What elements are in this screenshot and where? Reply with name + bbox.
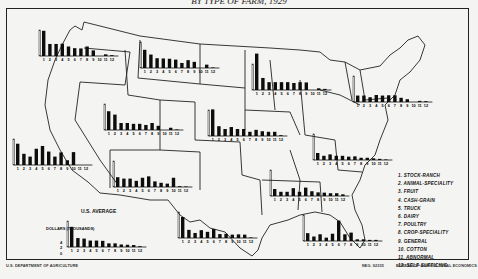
category-tick: 2 — [188, 240, 190, 244]
category-tick: 6 — [287, 92, 289, 96]
category-tick: 7 — [54, 167, 56, 171]
category-tick: 12 — [138, 249, 142, 253]
category-tick: 12 — [384, 162, 388, 166]
category-tick: 11 — [378, 162, 382, 166]
bar — [128, 179, 131, 187]
category-tick: 10 — [371, 162, 375, 166]
category-tick: 4 — [230, 138, 233, 142]
bar — [318, 234, 321, 241]
bar — [384, 159, 387, 160]
bar — [292, 188, 295, 196]
region-bar-chart: 123456789101112 — [252, 54, 331, 96]
category-tick: 12 — [341, 198, 345, 202]
category-tick: 9 — [261, 138, 263, 142]
category-tick: 1 — [256, 92, 258, 96]
bar — [316, 153, 319, 160]
category-tick: 7 — [108, 249, 110, 253]
bar — [298, 82, 301, 90]
bar — [347, 157, 350, 160]
category-tick: 2 — [150, 70, 152, 74]
bar — [22, 154, 25, 165]
bar — [255, 54, 258, 90]
category-tick: 10 — [97, 58, 101, 62]
bar — [166, 184, 169, 187]
category-tick: 4 — [274, 92, 277, 96]
bar — [107, 243, 110, 247]
bar — [138, 246, 141, 247]
bar — [116, 177, 119, 187]
bar — [223, 129, 226, 136]
bar — [286, 82, 289, 90]
bar — [35, 149, 38, 165]
category-tick: 2 — [363, 104, 365, 108]
bar — [132, 124, 135, 130]
category-tick: 3 — [194, 240, 196, 244]
bar — [144, 125, 147, 130]
category-tick: 11 — [78, 167, 82, 171]
bar — [73, 48, 76, 56]
category-tick: 11 — [273, 138, 277, 142]
legend-item: 1. STOCK-RANCH — [398, 172, 453, 180]
bar — [316, 192, 319, 196]
bar — [141, 178, 144, 187]
category-tick: 8 — [225, 240, 227, 244]
bar — [79, 48, 82, 56]
category-tick: 10 — [310, 92, 314, 96]
bar — [67, 46, 70, 56]
category-tick: 10 — [361, 243, 365, 247]
bar — [368, 240, 371, 241]
category-tick: 4 — [325, 243, 328, 247]
bar — [329, 193, 332, 196]
bar — [172, 178, 175, 187]
bar — [249, 237, 252, 238]
bar — [267, 132, 270, 136]
category-tick: 10 — [266, 138, 270, 142]
bar — [267, 82, 270, 90]
category-tick: 11 — [335, 198, 339, 202]
bar — [261, 131, 264, 136]
bar — [211, 109, 214, 136]
region-bar-chart: 123456789101112 — [178, 212, 257, 244]
region-bar-chart: 123456789101112 — [303, 215, 382, 247]
category-tick: 1 — [117, 189, 119, 193]
category-tick: 8 — [160, 189, 162, 193]
bar — [76, 238, 79, 247]
bar — [101, 241, 104, 247]
bar — [72, 152, 75, 165]
category-tick: 10 — [328, 198, 332, 202]
category-tick: 8 — [299, 92, 301, 96]
category-tick: 3 — [156, 70, 158, 74]
category-tick: 8 — [317, 198, 319, 202]
legend-item: 9. GENERAL — [398, 238, 453, 246]
bar — [285, 192, 288, 196]
bar — [61, 44, 64, 56]
bar — [113, 243, 116, 247]
category-tick: 9 — [166, 189, 168, 193]
bar — [28, 157, 31, 165]
category-tick: 5 — [341, 162, 343, 166]
category-tick: 10 — [162, 132, 166, 136]
bar — [274, 82, 277, 90]
category-tick: 10 — [236, 240, 240, 244]
category-tick: 3 — [319, 243, 321, 247]
category-tick: 5 — [298, 198, 300, 202]
bar — [104, 54, 107, 56]
category-tick: 10 — [411, 104, 415, 108]
category-tick: 6 — [175, 70, 177, 74]
footer-agency: U.S. DEPARTMENT OF AGRICULTURE — [6, 264, 78, 268]
category-tick: 5 — [331, 243, 333, 247]
bar — [224, 234, 227, 238]
bar — [261, 78, 264, 90]
legend-item: 4. CASH-GRAIN — [398, 197, 453, 205]
region-bar-chart: 123456789101112 — [113, 161, 192, 193]
bar — [328, 154, 331, 160]
scale-tick-0: 0 — [60, 251, 62, 256]
bar — [341, 194, 344, 196]
bar — [236, 129, 239, 136]
category-tick: 5 — [280, 92, 282, 96]
category-tick: 6 — [348, 162, 350, 166]
bar — [359, 158, 362, 160]
bar — [181, 217, 184, 238]
bar — [85, 46, 88, 56]
bar — [211, 67, 214, 68]
